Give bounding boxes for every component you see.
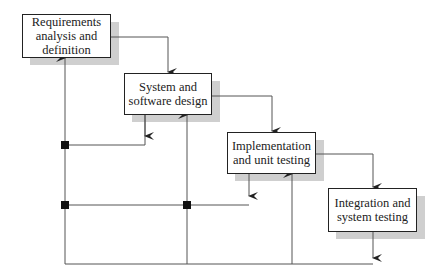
requirements-label: Requirements analysis and definition [32,15,101,57]
design-label: System and software design [129,80,208,108]
junction-node [61,141,69,149]
junction-node [61,201,69,209]
requirements-box: Requirements analysis and definition [22,14,111,58]
integration-box: Integration and system testing [328,188,417,232]
implementation-box: Implementation and unit testing [227,132,316,174]
waterfall-diagram: Requirements analysis and definition Sys… [0,0,447,274]
implementation-label: Implementation and unit testing [232,139,311,167]
design-box: System and software design [124,73,212,115]
integration-label: Integration and system testing [334,196,410,224]
junction-node [183,201,191,209]
